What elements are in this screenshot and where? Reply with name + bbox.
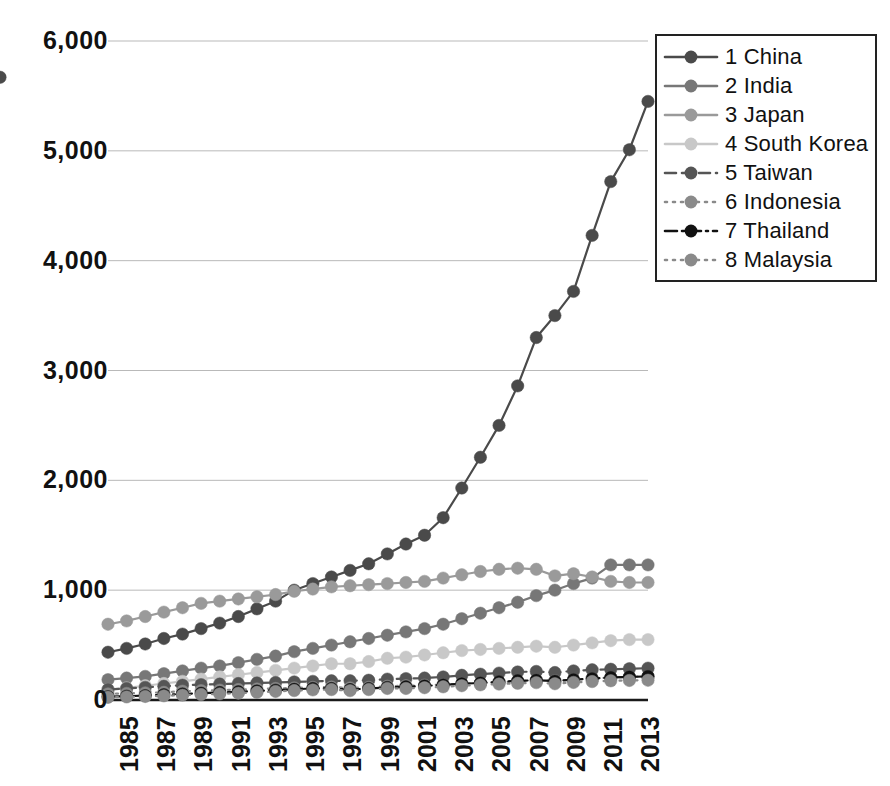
data-point xyxy=(120,615,132,627)
legend-item-indonesia[interactable]: 6 Indonesia xyxy=(657,187,875,216)
data-point xyxy=(307,660,319,672)
y-axis-tick-label: 1,000 xyxy=(0,577,122,602)
data-point xyxy=(474,607,486,619)
data-point xyxy=(344,684,356,696)
series-line xyxy=(108,640,648,690)
series-line xyxy=(108,676,648,696)
legend-item-china[interactable]: 1 China xyxy=(657,42,875,71)
data-point xyxy=(195,662,207,674)
data-point xyxy=(362,578,374,590)
data-point xyxy=(623,576,635,588)
legend-item-taiwan[interactable]: 5 Taiwan xyxy=(657,158,875,187)
data-point xyxy=(549,584,561,596)
data-point xyxy=(530,640,542,652)
x-axis-tick-label: 1989 xyxy=(191,716,216,772)
data-point xyxy=(288,662,300,674)
data-point xyxy=(437,511,449,523)
legend-marker-icon xyxy=(663,104,719,126)
data-point xyxy=(493,678,505,690)
legend-item-label: 4 South Korea xyxy=(725,131,868,157)
data-point xyxy=(623,633,635,645)
legend-item-japan[interactable]: 3 Japan xyxy=(657,100,875,129)
data-point xyxy=(549,641,561,653)
data-point xyxy=(120,642,132,654)
x-axis-tick-label: 1995 xyxy=(303,716,328,772)
data-point xyxy=(511,641,523,653)
data-point xyxy=(474,451,486,463)
data-point xyxy=(102,618,114,630)
data-point xyxy=(400,651,412,663)
data-point xyxy=(586,637,598,649)
legend-item-label: 2 India xyxy=(725,73,792,99)
data-point xyxy=(530,589,542,601)
series-line xyxy=(108,676,648,694)
data-point xyxy=(288,585,300,597)
legend-item-india[interactable]: 2 India xyxy=(657,71,875,100)
legend-item-malaysia[interactable]: 8 Malaysia xyxy=(657,245,875,274)
x-axis-tick-label: 1987 xyxy=(154,716,179,772)
legend-item-south-korea[interactable]: 4 South Korea xyxy=(657,129,875,158)
data-point xyxy=(344,658,356,670)
data-point xyxy=(288,684,300,696)
data-point xyxy=(456,569,468,581)
data-point xyxy=(493,602,505,614)
data-point xyxy=(530,331,542,343)
data-point xyxy=(176,602,188,614)
data-point xyxy=(307,583,319,595)
legend-item-label: 5 Taiwan xyxy=(725,160,813,186)
legend-marker-icon xyxy=(663,133,719,155)
data-point xyxy=(437,572,449,584)
data-point xyxy=(139,690,151,702)
x-axis-tick-label: 1991 xyxy=(229,716,254,772)
data-point xyxy=(269,588,281,600)
data-point xyxy=(530,676,542,688)
data-point xyxy=(195,688,207,700)
legend-item-thailand[interactable]: 7 Thailand xyxy=(657,216,875,245)
data-point xyxy=(456,613,468,625)
data-point xyxy=(586,675,598,687)
data-point xyxy=(418,622,430,634)
x-axis-tick-label: 2011 xyxy=(601,718,626,772)
x-axis-tick-label: 2009 xyxy=(564,716,589,772)
data-point xyxy=(251,591,263,603)
data-point xyxy=(195,622,207,634)
data-point xyxy=(493,419,505,431)
data-point xyxy=(493,563,505,575)
data-point xyxy=(567,567,579,579)
data-point xyxy=(567,285,579,297)
data-point xyxy=(623,674,635,686)
data-point xyxy=(269,664,281,676)
data-point xyxy=(325,658,337,670)
data-point xyxy=(605,675,617,687)
data-point xyxy=(381,629,393,641)
data-point xyxy=(232,610,244,622)
data-point xyxy=(605,559,617,571)
legend-item-label: 1 China xyxy=(725,44,802,70)
x-axis-tick-label: 1993 xyxy=(266,716,291,772)
data-point xyxy=(549,570,561,582)
y-axis-tick-label: 0 xyxy=(0,687,122,712)
x-axis-tick-label: 1985 xyxy=(117,716,142,772)
data-point xyxy=(493,642,505,654)
data-point xyxy=(642,633,654,645)
data-point xyxy=(232,593,244,605)
data-point xyxy=(269,685,281,697)
series-japan xyxy=(102,562,654,630)
y-axis-tick-label: 2,000 xyxy=(0,467,122,492)
data-point xyxy=(362,558,374,570)
x-axis-tick-label: 2013 xyxy=(638,716,663,772)
data-point xyxy=(344,564,356,576)
data-point xyxy=(437,618,449,630)
data-point xyxy=(586,571,598,583)
data-point xyxy=(586,229,598,241)
data-point xyxy=(176,689,188,701)
x-axis-tick-label: 2001 xyxy=(415,716,440,772)
data-point xyxy=(362,683,374,695)
data-point xyxy=(456,680,468,692)
data-point xyxy=(418,575,430,587)
data-point xyxy=(623,144,635,156)
legend-marker-icon xyxy=(663,191,719,213)
data-point xyxy=(511,677,523,689)
data-point xyxy=(456,482,468,494)
legend-item-label: 7 Thailand xyxy=(725,218,829,244)
